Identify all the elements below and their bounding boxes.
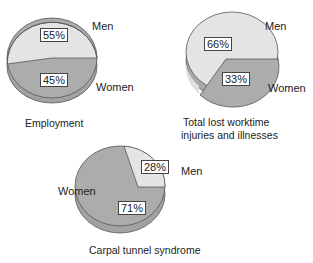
lost-worktime-men-label: Men (265, 20, 286, 32)
employment-caption: Employment (25, 117, 83, 130)
carpal-tunnel-women-label: Women (58, 185, 96, 197)
employment-men-label: Men (92, 20, 113, 32)
carpal-tunnel-men-label: Men (181, 165, 202, 177)
employment-women-label: Women (96, 81, 134, 93)
lost-worktime-women-percent: 33% (222, 72, 250, 86)
carpal-tunnel-men-percent: 28% (141, 160, 169, 174)
carpal-tunnel-women-percent: 71% (118, 201, 146, 215)
carpal-tunnel-caption: Carpal tunnel syndrome (89, 244, 200, 257)
lost-worktime-caption-line2: injuries and illnesses (181, 129, 278, 142)
employment-women-percent: 45% (40, 73, 68, 87)
employment-men-percent: 55% (40, 28, 68, 42)
lost-worktime-caption-line1: Total lost worktime (183, 116, 269, 129)
lost-worktime-women-label: Women (268, 82, 306, 94)
lost-worktime-men-percent: 66% (204, 37, 232, 51)
